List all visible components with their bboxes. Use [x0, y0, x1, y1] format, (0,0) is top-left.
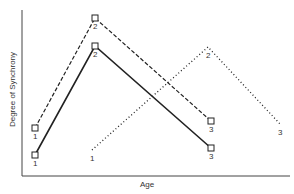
series-dashed: 123	[32, 15, 214, 141]
square-marker-icon	[32, 125, 38, 131]
point-label: 2	[206, 51, 211, 60]
point-label: 1	[90, 154, 95, 163]
square-marker-icon	[92, 15, 98, 21]
square-marker-icon	[208, 118, 214, 124]
point-label: 3	[209, 152, 214, 161]
x-axis-label: Age	[140, 180, 154, 189]
square-marker-icon	[208, 145, 214, 151]
series-line	[35, 18, 211, 128]
point-label: 1	[33, 132, 38, 141]
point-label: 3	[278, 128, 283, 137]
point-label: 3	[209, 125, 214, 134]
series-line	[35, 46, 211, 155]
y-axis-label: Degree of Synchrony	[8, 40, 17, 140]
point-label: 1	[33, 159, 38, 168]
point-label: 2	[93, 50, 98, 59]
series-dotted: 123	[90, 47, 283, 163]
square-marker-icon	[32, 152, 38, 158]
point-label: 2	[93, 22, 98, 31]
line-chart: 123123123	[0, 0, 294, 194]
series-solid: 123	[32, 43, 214, 168]
square-marker-icon	[92, 43, 98, 49]
